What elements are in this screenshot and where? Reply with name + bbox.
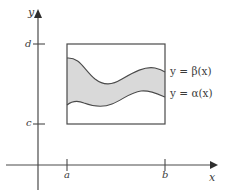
y-axis [34,9,42,190]
x-axis-arrow-icon [210,161,218,169]
region-between-curves-figure: y x d c a b y = β(x) y = α(x) [0,0,226,195]
upper-curve-label: y = β(x) [170,66,212,77]
y-axis-arrow-icon [34,9,42,18]
y-axis-label: y [28,7,34,18]
x-tick-label-b: b [162,170,168,180]
y-tick-label-c: c [26,118,32,128]
lower-curve-label: y = α(x) [170,88,213,99]
y-tick-label-d: d [25,39,31,49]
x-tick-label-a: a [64,170,70,180]
x-axis-label: x [209,172,215,183]
y-tick-marks [33,44,45,124]
